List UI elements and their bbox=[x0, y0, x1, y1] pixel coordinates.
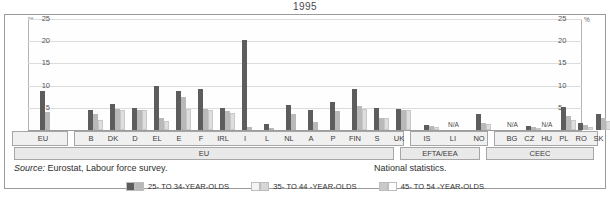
category-label-s: S bbox=[365, 131, 389, 146]
bar-i-s1 bbox=[242, 40, 247, 130]
y-tick-left-5: 5 bbox=[30, 104, 50, 112]
category-label-uk: UK bbox=[387, 131, 411, 146]
category-label-nl: NL bbox=[277, 131, 301, 146]
bar-p-s2 bbox=[335, 111, 340, 130]
bar-uk-s3 bbox=[406, 110, 411, 130]
bar-b-s3 bbox=[98, 120, 103, 130]
category-label-dk: DK bbox=[101, 131, 125, 146]
source-label: Source: bbox=[14, 163, 45, 173]
category-label-i: I bbox=[233, 131, 257, 146]
category-label-eu: EU bbox=[31, 131, 55, 146]
bar-no-s3 bbox=[486, 124, 491, 130]
chart-legend: 25- TO 34-YEAR-OLDS35- TO 44 -YEAR-OLDS4… bbox=[0, 182, 610, 191]
bar-fin-s3 bbox=[362, 109, 367, 130]
group-band-ceec: CEEC bbox=[486, 147, 594, 160]
category-label-irl: IRL bbox=[211, 131, 235, 146]
category-label-l: L bbox=[255, 131, 279, 146]
y-tick-right-10: 10 bbox=[558, 82, 578, 90]
gridline-25 bbox=[28, 19, 582, 20]
legend-25-34-label: 25- TO 34-YEAR-OLDS bbox=[148, 182, 229, 191]
category-label-sk: SK bbox=[587, 131, 610, 146]
bar-nl-s2 bbox=[291, 114, 296, 130]
category-label-e: E bbox=[167, 131, 191, 146]
plot-area: N/AN/AN/A bbox=[28, 19, 582, 131]
chart-title: 1995 bbox=[0, 1, 610, 12]
y-tick-right-20: 20 bbox=[558, 37, 578, 45]
na-label-hu: N/A bbox=[542, 121, 553, 128]
legend-45-54[interactable]: 45- TO 54 -YEAR-OLDS bbox=[379, 182, 484, 191]
bar-eu-s2 bbox=[45, 112, 50, 130]
category-label-d: D bbox=[123, 131, 147, 146]
bar-s-s3 bbox=[384, 118, 389, 130]
bar-pl-s3 bbox=[571, 120, 576, 130]
y-tick-right-25: 25 bbox=[558, 15, 578, 23]
category-label-no: NO bbox=[467, 131, 491, 146]
group-band-eu: EU bbox=[14, 147, 394, 160]
legend-25-34-swatch-icon bbox=[126, 182, 144, 191]
bar-cz-s3 bbox=[536, 128, 541, 130]
gridline-10 bbox=[28, 86, 582, 87]
y-tick-left-20: 20 bbox=[30, 37, 50, 45]
figure-root: 1995 % % N/AN/AN/A 252520201515101055 EU… bbox=[0, 0, 610, 200]
legend-35-44[interactable]: 35- TO 44 -YEAR-OLDS bbox=[251, 182, 356, 191]
legend-35-44-label: 35- TO 44 -YEAR-OLDS bbox=[273, 182, 356, 191]
legend-35-44-swatch-icon bbox=[251, 182, 269, 191]
legend-45-54-label: 45- TO 54 -YEAR-OLDS bbox=[401, 182, 484, 191]
category-label-p: P bbox=[321, 131, 345, 146]
category-label-el: EL bbox=[145, 131, 169, 146]
group-band-efta: EFTA/EEA bbox=[400, 147, 480, 160]
category-label-is: IS bbox=[415, 131, 439, 146]
category-label-fin: FIN bbox=[343, 131, 367, 146]
gridline-20 bbox=[28, 41, 582, 42]
category-label-b: B bbox=[79, 131, 103, 146]
bar-e-s3 bbox=[186, 109, 191, 130]
category-label-f: F bbox=[189, 131, 213, 146]
na-label-bg: N/A bbox=[507, 121, 518, 128]
y-tick-right-5: 5 bbox=[558, 104, 578, 112]
y-tick-left-10: 10 bbox=[30, 82, 50, 90]
bar-sk-s3 bbox=[606, 121, 610, 130]
legend-25-34[interactable]: 25- TO 34-YEAR-OLDS bbox=[126, 182, 229, 191]
y-tick-left-15: 15 bbox=[30, 59, 50, 67]
gridline-15 bbox=[28, 63, 582, 64]
bar-irl-s3 bbox=[230, 113, 235, 130]
bar-i-s2 bbox=[247, 127, 252, 130]
category-label-a: A bbox=[299, 131, 323, 146]
source-note: Source: Eurostat, Labour force survey. bbox=[14, 163, 167, 173]
bar-el-s3 bbox=[164, 121, 169, 130]
y-tick-right-15: 15 bbox=[558, 59, 578, 67]
bar-ro-s3 bbox=[588, 127, 593, 130]
bar-d-s3 bbox=[142, 110, 147, 130]
category-label-li: LI bbox=[441, 131, 465, 146]
y-tick-left-25: 25 bbox=[30, 15, 50, 23]
source-text: Eurostat, Labour force survey. bbox=[45, 163, 167, 173]
national-statistics-note: National statistics. bbox=[374, 163, 447, 173]
bar-is-s3 bbox=[434, 127, 439, 130]
y-unit-right: % bbox=[584, 16, 590, 23]
bar-f-s3 bbox=[208, 110, 213, 130]
na-label-li: N/A bbox=[448, 121, 459, 128]
bar-dk-s3 bbox=[120, 110, 125, 130]
bar-l-s2 bbox=[269, 128, 274, 130]
legend-45-54-swatch-icon bbox=[379, 182, 397, 191]
bar-a-s2 bbox=[313, 122, 318, 130]
